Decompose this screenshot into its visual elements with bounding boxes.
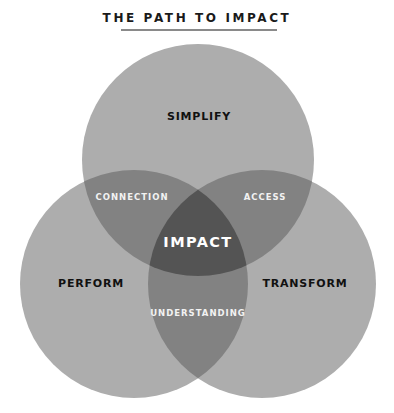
label-understanding: UNDERSTANDING <box>150 308 246 318</box>
label-simplify: SIMPLIFY <box>167 110 231 123</box>
label-connection: CONNECTION <box>95 192 168 202</box>
label-transform: TRANSFORM <box>262 277 347 290</box>
label-perform: PERFORM <box>58 277 124 290</box>
label-impact: IMPACT <box>163 234 232 250</box>
label-access: ACCESS <box>244 192 287 202</box>
venn-diagram: SIMPLIFY PERFORM TRANSFORM CONNECTION AC… <box>0 0 394 413</box>
